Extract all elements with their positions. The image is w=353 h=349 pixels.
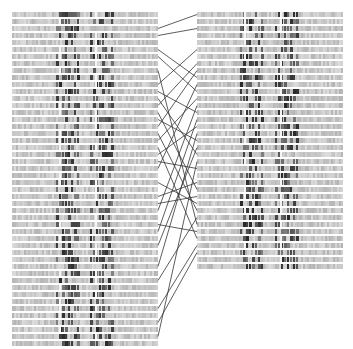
left-strip <box>12 264 158 269</box>
connection-line <box>158 113 197 190</box>
left-strip <box>12 278 158 283</box>
right-strip <box>197 236 343 241</box>
left-strip <box>12 236 158 241</box>
left-strip <box>12 96 158 101</box>
left-strip <box>12 54 158 59</box>
left-strip <box>12 257 158 262</box>
left-strip <box>12 47 158 52</box>
left-strip <box>12 33 158 38</box>
right-strip <box>197 26 343 31</box>
left-strip <box>12 222 158 227</box>
right-strip-stack <box>197 12 343 269</box>
right-strip <box>197 145 343 150</box>
left-strip <box>12 201 158 206</box>
connection-line <box>158 106 197 211</box>
right-strip <box>197 180 343 185</box>
connection-line <box>158 50 197 78</box>
connection-line <box>158 64 197 106</box>
left-strip <box>12 145 158 150</box>
right-strip <box>197 19 343 24</box>
left-strip <box>12 215 158 220</box>
correspondence-lines <box>158 15 197 337</box>
right-strip <box>197 68 343 73</box>
left-strip <box>12 229 158 234</box>
left-strip <box>12 250 158 255</box>
right-strip <box>197 124 343 129</box>
right-strip <box>197 61 343 66</box>
right-strip <box>197 229 343 234</box>
left-strip <box>12 187 158 192</box>
right-strip <box>197 243 343 248</box>
left-strip <box>12 243 158 248</box>
left-strip-stack <box>12 12 158 346</box>
connection-line <box>158 92 197 113</box>
connection-line <box>158 162 197 337</box>
connection-line <box>158 99 197 141</box>
left-strip <box>12 334 158 339</box>
right-strip <box>197 89 343 94</box>
right-strip <box>197 222 343 227</box>
left-strip <box>12 194 158 199</box>
left-strip <box>12 320 158 325</box>
left-strip <box>12 138 158 143</box>
right-strip <box>197 257 343 262</box>
right-strip <box>197 215 343 220</box>
left-strip <box>12 40 158 45</box>
left-strip <box>12 180 158 185</box>
right-strip <box>197 47 343 52</box>
left-strip <box>12 75 158 80</box>
connection-line <box>158 29 197 36</box>
right-strip <box>197 250 343 255</box>
right-strip <box>197 152 343 157</box>
left-strip <box>12 327 158 332</box>
left-strip <box>12 285 158 290</box>
strip-alignment-diagram <box>0 0 353 349</box>
left-strip <box>12 166 158 171</box>
left-strip <box>12 19 158 24</box>
connection-line <box>158 246 197 309</box>
left-strip <box>12 131 158 136</box>
right-strip <box>197 82 343 87</box>
left-strip <box>12 110 158 115</box>
left-strip <box>12 26 158 31</box>
right-strip <box>197 117 343 122</box>
left-strip <box>12 12 158 17</box>
left-strip <box>12 341 158 346</box>
right-strip <box>197 173 343 178</box>
right-strip <box>197 12 343 17</box>
left-strip <box>12 208 158 213</box>
right-strip <box>197 187 343 192</box>
right-strip <box>197 194 343 199</box>
left-strip <box>12 292 158 297</box>
right-strip <box>197 54 343 59</box>
right-strip <box>197 75 343 80</box>
right-strip <box>197 33 343 38</box>
connection-line <box>158 57 197 92</box>
right-strip <box>197 40 343 45</box>
left-strip <box>12 299 158 304</box>
connection-line <box>158 15 197 29</box>
left-strip <box>12 68 158 73</box>
left-strip <box>12 117 158 122</box>
left-strip <box>12 306 158 311</box>
right-strip <box>197 264 343 269</box>
left-strip <box>12 152 158 157</box>
right-strip <box>197 96 343 101</box>
right-strip <box>197 159 343 164</box>
right-strip <box>197 103 343 108</box>
connection-line <box>158 120 197 232</box>
right-strip <box>197 166 343 171</box>
left-strip <box>12 61 158 66</box>
right-strip <box>197 208 343 213</box>
left-strip <box>12 173 158 178</box>
left-strip <box>12 159 158 164</box>
left-strip <box>12 89 158 94</box>
left-strip <box>12 82 158 87</box>
right-strip <box>197 110 343 115</box>
left-strip <box>12 313 158 318</box>
left-strip <box>12 103 158 108</box>
right-strip <box>197 131 343 136</box>
connection-line <box>158 85 197 169</box>
left-strip <box>12 124 158 129</box>
left-strip <box>12 271 158 276</box>
